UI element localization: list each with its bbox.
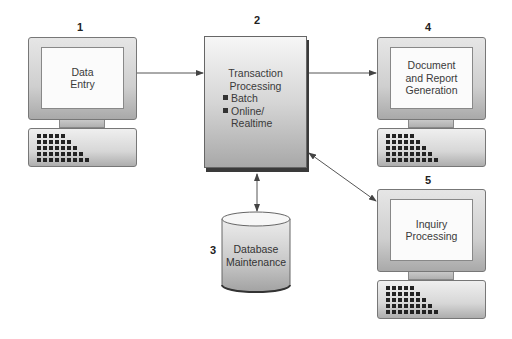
process-title-line: Processing: [205, 80, 306, 93]
screen: Document and Report Generation: [390, 47, 473, 109]
square-bullet-icon: [223, 108, 228, 113]
screen: Inquiry Processing: [390, 199, 473, 261]
keys-grid: [386, 286, 446, 316]
node-label-line: Database: [222, 243, 290, 256]
monitor-stand: [408, 120, 454, 128]
process-title-line: Transaction: [205, 67, 306, 80]
monitor-stand: [59, 120, 105, 128]
bullet-label-line: Realtime: [231, 117, 272, 130]
keyboard-icon: [377, 280, 486, 319]
monitor-icon: Data Entry: [28, 37, 137, 120]
node-number-1: 1: [70, 21, 90, 33]
node-number-3: 3: [203, 244, 223, 256]
node-label-line: Processing: [406, 230, 458, 243]
keyboard-icon: [28, 128, 137, 167]
node-label-line: and Report: [406, 72, 458, 85]
node-label-line: Data: [71, 66, 93, 79]
node-number-4: 4: [418, 21, 438, 33]
bullet-label-line: Online/: [231, 105, 272, 118]
process-box: Transaction Processing Batch Online/ Rea…: [204, 36, 307, 168]
database-label: Database Maintenance: [222, 243, 290, 268]
node-number-5: 5: [418, 174, 438, 186]
bullet-label: Batch: [231, 92, 258, 105]
square-bullet-icon: [223, 95, 228, 100]
node-number-2: 2: [247, 14, 267, 26]
process-box-text: Transaction Processing Batch Online/ Rea…: [205, 67, 306, 130]
monitor-stand: [408, 272, 454, 280]
bullet-label: Online/ Realtime: [231, 105, 272, 130]
node-label-line: Generation: [406, 84, 458, 97]
node-label-line: Inquiry: [416, 218, 448, 231]
bullet-item-online-realtime: Online/ Realtime: [205, 105, 306, 130]
keys-grid: [386, 134, 446, 164]
bullet-item-batch: Batch: [205, 92, 306, 105]
node-label-line: Document: [408, 59, 456, 72]
node-label-line: Entry: [70, 78, 95, 91]
keys-grid: [37, 134, 97, 164]
monitor-icon: Inquiry Processing: [377, 189, 486, 272]
edge-2-to-5: [309, 153, 376, 201]
node-label-line: Maintenance: [222, 256, 290, 269]
monitor-icon: Document and Report Generation: [377, 37, 486, 120]
keyboard-icon: [377, 128, 486, 167]
screen: Data Entry: [41, 47, 124, 109]
